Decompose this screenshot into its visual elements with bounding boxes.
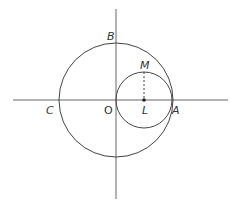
label-a: A xyxy=(171,104,180,117)
label-m: M xyxy=(140,59,150,72)
geometry-diagram: B M C O L A xyxy=(0,0,237,201)
label-b: B xyxy=(107,30,115,43)
label-c: C xyxy=(46,104,54,117)
point-l-dot xyxy=(142,98,146,102)
label-l: L xyxy=(142,104,148,117)
label-o: O xyxy=(104,104,113,117)
